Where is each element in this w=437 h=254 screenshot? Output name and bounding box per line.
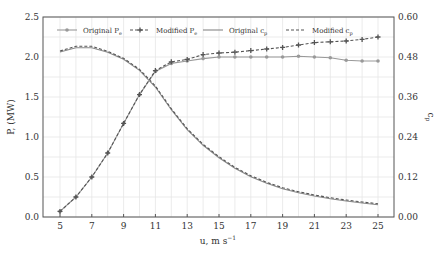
legend-item: Original Pe	[57, 27, 122, 36]
marker-plus	[312, 40, 317, 45]
y-tick-label: 2.0	[25, 52, 40, 62]
y2-tick-label: 0.36	[398, 92, 418, 102]
x-tick-label: 23	[340, 221, 352, 231]
x-axis-label: u, m s−1	[200, 234, 236, 246]
marker-dot	[217, 55, 221, 59]
y2-axis-ticks: 0.000.120.240.360.480.60	[398, 12, 418, 222]
y2-tick-label: 0.60	[398, 12, 418, 22]
legend-item: Modified Pe	[130, 27, 197, 36]
y2-tick-label: 0.00	[398, 212, 418, 222]
marker-plus	[138, 28, 143, 33]
marker-plus	[280, 45, 285, 50]
x-tick-label: 5	[57, 221, 63, 231]
x-tick-label: 11	[150, 221, 161, 231]
marker-dot	[313, 55, 317, 59]
x-tick-label: 15	[213, 221, 225, 231]
marker-dot	[281, 55, 285, 59]
marker-plus	[360, 37, 365, 42]
marker-plus	[232, 50, 237, 55]
marker-plus	[153, 68, 158, 73]
marker-plus	[264, 47, 269, 52]
x-tick-label: 21	[309, 221, 320, 231]
x-tick-label: 19	[277, 221, 289, 231]
marker-dot	[249, 55, 253, 59]
marker-dot	[297, 54, 301, 58]
x-tick-label: 25	[372, 221, 384, 231]
legend-label: Original Pe	[83, 27, 122, 36]
y-axis-ticks: 0.00.51.01.52.02.5	[25, 12, 40, 222]
x-tick-label: 7	[89, 221, 95, 231]
y-tick-label: 2.5	[25, 12, 40, 22]
marker-plus	[201, 52, 206, 57]
marker-plus	[121, 121, 126, 126]
marker-plus	[248, 48, 253, 53]
y2-tick-label: 0.12	[398, 172, 418, 182]
marker-dot	[233, 55, 237, 59]
marker-plus	[344, 39, 349, 44]
y-tick-label: 1.0	[25, 132, 40, 142]
y2-tick-label: 0.48	[398, 52, 418, 62]
y-tick-label: 1.5	[25, 92, 40, 102]
marker-dot	[344, 58, 348, 62]
marker-dot	[376, 59, 380, 63]
x-tick-label: 17	[245, 221, 257, 231]
legend-item: Modified cp	[286, 27, 353, 37]
marker-plus	[328, 39, 333, 44]
x-tick-label: 9	[121, 221, 127, 231]
legend: Original PeModified PeOriginal cpModifie…	[57, 27, 353, 37]
y-axis-label: P, (MW)	[6, 99, 16, 134]
marker-dot	[329, 56, 333, 60]
marker-dot	[360, 59, 364, 63]
marker-plus	[296, 43, 301, 48]
marker-plus	[217, 51, 222, 56]
y-tick-label: 0.0	[25, 212, 40, 222]
x-tick-label: 13	[181, 221, 193, 231]
y2-axis-label: cp	[424, 113, 436, 122]
y2-tick-label: 0.24	[398, 132, 418, 142]
marker-dot	[65, 28, 69, 32]
power-cp-chart: 5791113151719212325 0.00.51.01.52.02.5 0…	[0, 0, 437, 254]
legend-label: Modified cp	[312, 27, 353, 37]
marker-dot	[265, 55, 269, 59]
marker-dot	[201, 57, 205, 61]
legend-label: Modified Pe	[156, 27, 197, 36]
y-tick-label: 0.5	[25, 172, 40, 182]
marker-plus	[376, 35, 381, 40]
